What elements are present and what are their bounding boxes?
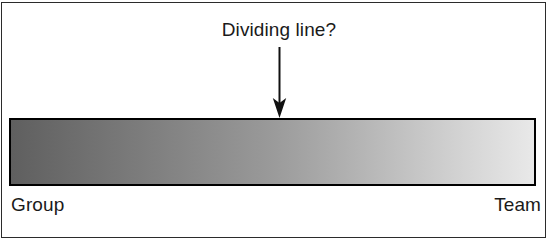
continuum-left-label: Group bbox=[11, 194, 64, 216]
annotation-label: Dividing line? bbox=[0, 18, 559, 42]
figure-canvas: Dividing line? Group Team bbox=[0, 0, 560, 245]
continuum-gradient-bar bbox=[9, 118, 536, 186]
down-arrow-icon bbox=[272, 47, 287, 119]
continuum-right-label: Team bbox=[494, 194, 541, 216]
continuum-gradient-fill bbox=[11, 120, 534, 184]
